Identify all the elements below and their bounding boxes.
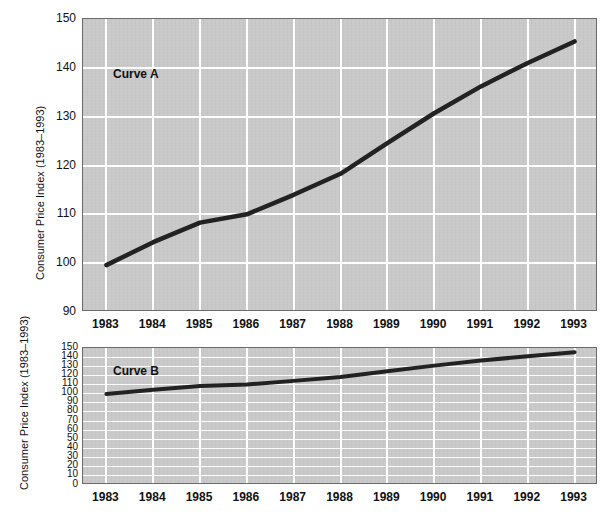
plot-area-curve-b: Curve B [82, 347, 597, 484]
y-axis-tick-label: 100 [50, 255, 76, 269]
y-axis-title-a: Consumer Price Index (1983–1993) [34, 106, 46, 280]
x-axis-tick-label: 1993 [544, 317, 604, 331]
y-axis-title-b: Consumer Price Index (1983–1993) [18, 316, 30, 490]
y-axis-tick-label: 140 [50, 60, 76, 74]
line-series-curve-a [83, 19, 597, 311]
y-axis-tick-label: 110 [50, 206, 76, 220]
figure-two-line-charts: Consumer Price Index (1983–1993) 1501401… [0, 0, 610, 527]
line-series-curve-b [83, 348, 597, 484]
curve-b-annotation: Curve B [113, 364, 159, 378]
y-axis-tick-label: 130 [50, 109, 76, 123]
curve-a-annotation: Curve A [113, 67, 159, 81]
x-axis-tick-label: 1993 [544, 490, 604, 504]
y-axis-tick-label: 0 [52, 479, 78, 489]
y-axis-tick-label: 120 [50, 158, 76, 172]
plot-area-curve-a: Curve A [82, 18, 597, 311]
y-axis-tick-label: 150 [50, 11, 76, 25]
y-axis-tick-label: 90 [50, 304, 76, 318]
